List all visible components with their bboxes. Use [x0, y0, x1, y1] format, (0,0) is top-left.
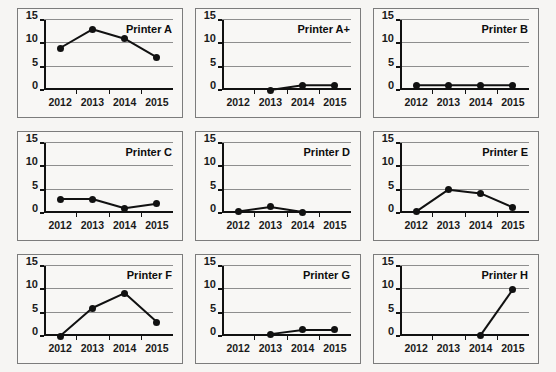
y-axis-label: 5	[210, 179, 216, 191]
x-tick	[109, 336, 110, 340]
x-tick	[287, 90, 288, 94]
y-axis-label: 0	[32, 325, 38, 337]
data-series	[222, 20, 351, 90]
x-axis-label: 2013	[437, 96, 460, 108]
x-axis-label: 2012	[226, 342, 249, 354]
y-axis-label: 0	[388, 325, 394, 337]
x-tick	[141, 213, 142, 217]
y-axis-label: 10	[382, 155, 394, 167]
y-axis-label: 5	[210, 56, 216, 68]
data-point-marker	[299, 209, 306, 216]
y-axis-label: 10	[26, 32, 38, 44]
x-tick	[432, 213, 433, 217]
plot-area: 0510152012201320142015	[44, 20, 173, 90]
data-point-marker	[413, 208, 420, 215]
y-axis-label: 5	[388, 302, 394, 314]
x-axis-label: 2013	[81, 96, 104, 108]
x-tick	[141, 90, 142, 94]
y-axis-label: 0	[210, 325, 216, 337]
chart-panel: Printer E0510152012201320142015	[373, 131, 539, 241]
data-point-marker	[267, 331, 274, 338]
x-tick	[76, 336, 77, 340]
plot-area: 0510152012201320142015	[400, 266, 529, 336]
series-line	[60, 29, 157, 57]
x-tick	[109, 213, 110, 217]
x-axis-label: 2012	[48, 96, 71, 108]
x-tick	[109, 90, 110, 94]
y-axis-label: 5	[32, 179, 38, 191]
x-tick	[287, 336, 288, 340]
x-axis-label: 2015	[323, 342, 346, 354]
x-tick	[465, 90, 466, 94]
y-axis-label: 5	[388, 179, 394, 191]
y-axis-label: 10	[26, 155, 38, 167]
data-point-marker	[445, 186, 452, 193]
x-tick	[319, 90, 320, 94]
series-line	[416, 190, 513, 212]
data-series	[44, 266, 173, 336]
y-axis-label: 10	[204, 278, 216, 290]
chart-panel: Printer H0510152012201320142015	[373, 254, 539, 364]
small-multiples-grid: Printer A0510152012201320142015Printer A…	[17, 8, 539, 364]
data-point-marker	[153, 319, 160, 326]
x-tick	[76, 90, 77, 94]
y-axis-label: 15	[382, 132, 394, 144]
x-axis-label: 2015	[145, 219, 168, 231]
x-tick	[465, 213, 466, 217]
y-axis-label: 15	[26, 255, 38, 267]
chart-panel: Printer D0510152012201320142015	[195, 131, 361, 241]
x-axis-label: 2012	[226, 96, 249, 108]
x-axis-label: 2013	[81, 342, 104, 354]
y-axis-label: 0	[388, 202, 394, 214]
y-axis-label: 0	[210, 202, 216, 214]
x-tick	[497, 213, 498, 217]
x-axis-label: 2015	[501, 342, 524, 354]
chart-panel: Printer G0510152012201320142015	[195, 254, 361, 364]
series-line	[60, 199, 157, 208]
y-axis-label: 0	[210, 79, 216, 91]
x-tick	[254, 336, 255, 340]
x-tick	[319, 336, 320, 340]
data-series	[400, 20, 529, 90]
y-axis-label: 15	[26, 9, 38, 21]
data-point-marker	[89, 26, 96, 33]
x-tick	[497, 90, 498, 94]
x-axis-label: 2014	[113, 96, 136, 108]
plot-area: 0510152012201320142015	[44, 266, 173, 336]
x-axis-label: 2014	[291, 219, 314, 231]
x-tick	[497, 336, 498, 340]
x-axis-label: 2012	[404, 96, 427, 108]
x-axis-label: 2013	[437, 219, 460, 231]
y-axis-label: 15	[204, 132, 216, 144]
data-point-marker	[445, 82, 452, 89]
data-point-marker	[267, 87, 274, 94]
x-axis-label: 2014	[469, 96, 492, 108]
data-point-marker	[89, 196, 96, 203]
chart-panel: Printer C0510152012201320142015	[17, 131, 183, 241]
plot-area: 0510152012201320142015	[400, 20, 529, 90]
y-axis-label: 5	[32, 302, 38, 314]
series-line	[60, 293, 157, 336]
x-axis-label: 2014	[291, 96, 314, 108]
x-axis-label: 2015	[145, 96, 168, 108]
plot-area: 0510152012201320142015	[44, 143, 173, 213]
data-point-marker	[235, 208, 242, 215]
x-tick	[76, 213, 77, 217]
x-axis-label: 2013	[81, 219, 104, 231]
data-point-marker	[121, 290, 128, 297]
chart-panel: Printer F0510152012201320142015	[17, 254, 183, 364]
chart-panel: Printer A+0510152012201320142015	[195, 8, 361, 118]
x-tick	[254, 213, 255, 217]
data-point-marker	[299, 82, 306, 89]
data-point-marker	[57, 45, 64, 52]
y-axis-label: 15	[204, 9, 216, 21]
data-series	[400, 266, 529, 336]
x-axis-label: 2014	[291, 342, 314, 354]
x-axis-label: 2014	[113, 342, 136, 354]
x-axis-label: 2013	[259, 219, 282, 231]
x-axis-label: 2015	[323, 96, 346, 108]
data-point-marker	[477, 190, 484, 197]
y-axis-label: 5	[388, 56, 394, 68]
x-axis-label: 2015	[501, 219, 524, 231]
y-axis-label: 15	[382, 9, 394, 21]
